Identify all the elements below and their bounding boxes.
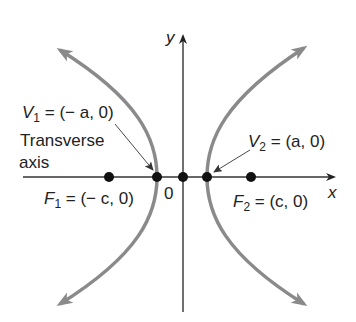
v2-label: V2 = (a, 0) (248, 132, 325, 154)
origin-point (178, 172, 188, 182)
vertex-v2-point (202, 172, 212, 182)
f1-label: F1 = (− c, 0) (44, 189, 134, 211)
transverse-axis-label-line1: Transverse (20, 131, 104, 150)
origin-label: 0 (164, 184, 173, 203)
transverse-axis-label-line2: axis (19, 153, 49, 172)
v2-pointer (214, 150, 250, 172)
vertex-v1-point (152, 172, 162, 182)
focus-f2-point (246, 172, 256, 182)
hyperbola-diagram: y x 0 V1 = (− a, 0) Transverse axis V2 =… (0, 0, 356, 322)
y-axis-label: y (165, 28, 176, 47)
f2-label: F2 = (c, 0) (233, 192, 308, 214)
x-axis-label: x (327, 183, 337, 202)
v1-label: V1 = (− a, 0) (22, 103, 114, 125)
hyperbola-right-branch-upper (207, 48, 304, 177)
focus-f1-point (104, 172, 114, 182)
